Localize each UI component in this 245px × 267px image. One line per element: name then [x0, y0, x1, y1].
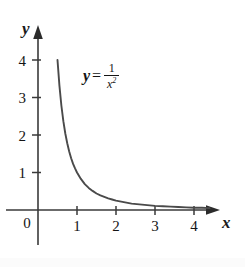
graph-figure: y x 0 1 2 3 4 1 2 3 4 y = 1 x2	[0, 0, 245, 267]
equation-annotation: y = 1 x2	[83, 62, 119, 90]
equation-fraction: 1 x2	[104, 62, 119, 90]
y-tick-label-3: 3	[12, 91, 26, 106]
y-axis-arrowhead	[33, 25, 43, 39]
x-tick-label-3: 3	[148, 219, 162, 234]
x-axis-arrowhead	[206, 205, 220, 215]
x-tick-label-4: 4	[187, 219, 201, 234]
fraction-numerator: 1	[107, 62, 117, 75]
y-tick-label-4: 4	[12, 54, 26, 69]
x-tick-label-2: 2	[109, 219, 123, 234]
x-axis-label: x	[222, 214, 231, 231]
equation-lhs: y	[83, 68, 90, 84]
bottom-edge-band	[0, 258, 245, 267]
origin-label: 0	[20, 216, 34, 231]
x-tick-label-1: 1	[70, 219, 84, 234]
y-axis-label: y	[22, 20, 30, 37]
equation-equals-sign: =	[92, 68, 101, 84]
curve-y-equals-one-over-x-squared	[58, 60, 210, 208]
y-tick-label-1: 1	[12, 166, 26, 181]
y-tick-label-2: 2	[12, 129, 26, 144]
fraction-denominator: x2	[105, 76, 118, 90]
denominator-exponent: 2	[112, 76, 116, 85]
